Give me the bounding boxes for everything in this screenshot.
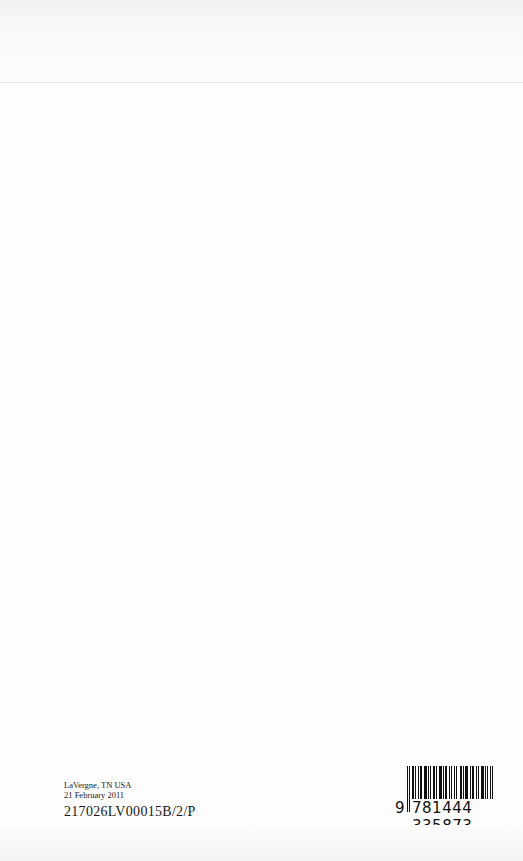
print-code: 217026LV00015B/2/P bbox=[64, 804, 196, 820]
page-top-edge bbox=[0, 0, 523, 83]
print-location: LaVergne, TN USA bbox=[64, 780, 196, 790]
barcode-lead-digit: 9 bbox=[395, 799, 405, 817]
page-bottom-edge bbox=[0, 825, 523, 861]
isbn-barcode: 9 781444335873 bbox=[397, 766, 513, 818]
print-date: 21 February 2011 bbox=[64, 790, 196, 800]
barcode-group-1: 781444 bbox=[412, 799, 472, 817]
printer-colophon: LaVergne, TN USA 21 February 2011 217026… bbox=[64, 780, 196, 820]
